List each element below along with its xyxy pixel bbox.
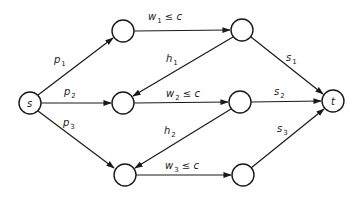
label-p3: p3 xyxy=(62,117,75,131)
node-a3 xyxy=(114,164,136,186)
edge-a2-b2 xyxy=(134,102,228,103)
edge-a1-b1 xyxy=(134,30,230,31)
label-s3: s3 xyxy=(277,123,288,137)
node-b2 xyxy=(229,91,251,113)
label-p2: p2 xyxy=(63,86,76,100)
label-s2: s2 xyxy=(274,86,285,100)
edge-b3-t xyxy=(251,109,324,168)
label-p1: p1 xyxy=(53,54,66,68)
node-a1 xyxy=(112,20,134,42)
flow-network-diagram: s t p1 p2 p3 w1 ≤ c w2 ≤ c w3 ≤ c h1 h2 … xyxy=(0,0,363,201)
label-w1: w1 ≤ c xyxy=(148,11,182,25)
node-source-label: s xyxy=(27,98,32,109)
label-h2: h2 xyxy=(164,125,176,139)
edge-b1-t xyxy=(251,37,323,94)
label-w3: w3 ≤ c xyxy=(165,160,199,174)
node-a2 xyxy=(112,92,134,114)
edge-s-a3 xyxy=(38,111,114,168)
label-w2: w2 ≤ c xyxy=(166,88,200,102)
label-s1: s1 xyxy=(286,52,297,66)
edge-s-a1 xyxy=(38,38,113,95)
label-h1: h1 xyxy=(166,53,178,67)
edge-b2-t xyxy=(251,101,321,102)
node-b1 xyxy=(231,19,253,41)
node-b3 xyxy=(232,164,254,186)
edges xyxy=(38,30,324,175)
